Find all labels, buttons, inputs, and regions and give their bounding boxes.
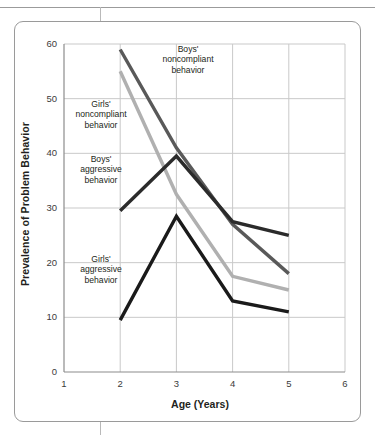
y-tick-label-10: 10 bbox=[33, 311, 57, 322]
y-tick-label-60: 60 bbox=[33, 38, 57, 49]
x-tick-label-3: 3 bbox=[166, 378, 186, 389]
series-line-2 bbox=[120, 156, 289, 235]
line-chart: Prevalence of Problem Behavior Age (Year… bbox=[0, 0, 375, 435]
y-tick-label-50: 50 bbox=[33, 93, 57, 104]
y-tick-label-0: 0 bbox=[33, 366, 57, 377]
series-annotation-boys-noncompliant: Boys'noncompliantbehavior bbox=[146, 44, 230, 75]
x-tick-label-5: 5 bbox=[279, 378, 299, 389]
series-line-0 bbox=[120, 49, 289, 273]
x-tick-label-6: 6 bbox=[335, 378, 355, 389]
series-annotation-boys-aggressive: Boys'aggressivebehavior bbox=[59, 154, 143, 185]
x-tick-label-2: 2 bbox=[110, 378, 130, 389]
y-axis-title: Prevalence of Problem Behavior bbox=[19, 104, 31, 304]
y-tick-label-30: 30 bbox=[33, 202, 57, 213]
x-tick-label-1: 1 bbox=[54, 378, 74, 389]
series-line-3 bbox=[120, 216, 289, 320]
y-tick-label-20: 20 bbox=[33, 257, 57, 268]
gridlines bbox=[64, 44, 345, 372]
y-tick-label-40: 40 bbox=[33, 147, 57, 158]
x-axis-title: Age (Years) bbox=[60, 398, 340, 410]
series-annotation-girls-noncompliant: Girls'noncompliantbehavior bbox=[59, 99, 143, 130]
chart-series bbox=[120, 49, 289, 320]
x-tick-label-4: 4 bbox=[223, 378, 243, 389]
series-annotation-girls-aggressive: Girls'aggressivebehavior bbox=[59, 254, 143, 285]
